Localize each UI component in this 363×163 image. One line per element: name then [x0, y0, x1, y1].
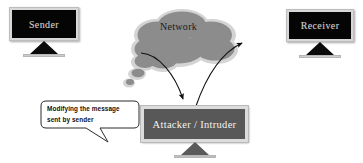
node-attacker[interactable]: Attacker / Intruder [141, 106, 248, 142]
attacker-stand-base [174, 155, 216, 158]
diagram-canvas: Sender Receiver [0, 0, 363, 163]
arrow-network-to-attacker [141, 53, 183, 99]
attacker-label: Attacker / Intruder [153, 119, 237, 130]
attacker-monitor-stand [141, 142, 248, 158]
callout-line-2: sent by sender [47, 114, 125, 125]
callout-text: Modifying the message sent by sender [47, 103, 125, 125]
network-label: Network [160, 21, 197, 32]
callout-line-1: Modifying the message [47, 103, 125, 114]
attacker-stand-triangle [181, 142, 209, 155]
arrow-attacker-to-network [196, 43, 242, 106]
